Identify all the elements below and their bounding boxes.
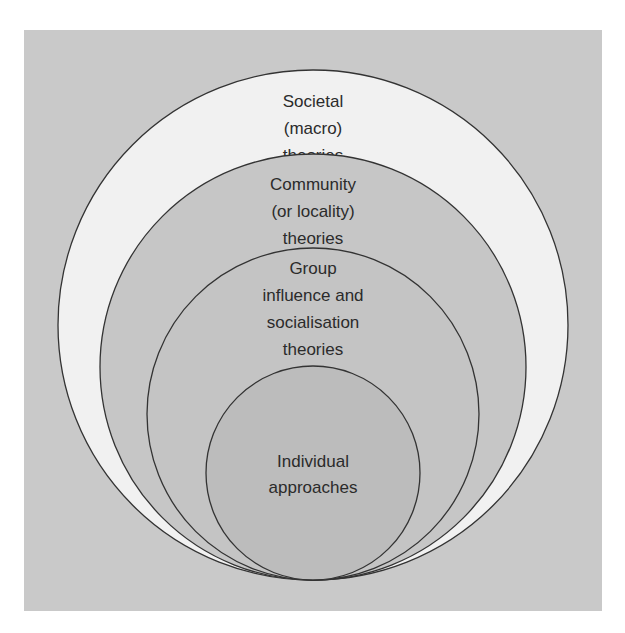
- diagram-canvas: Societal (macro) theories Community (or …: [0, 0, 625, 633]
- label-group-line-1: Group: [289, 259, 336, 278]
- label-group-line-4: theories: [283, 340, 343, 359]
- circle-individual: Individual approaches: [206, 366, 420, 580]
- label-societal-line-2: (macro): [284, 119, 343, 138]
- label-individual-line-2: approaches: [269, 478, 358, 497]
- label-community-line-3: theories: [283, 229, 343, 248]
- label-group-line-3: socialisation: [267, 313, 360, 332]
- label-individual-line-1: Individual: [277, 452, 349, 471]
- label-community-line-1: Community: [270, 175, 356, 194]
- label-community-line-2: (or locality): [271, 202, 354, 221]
- label-societal-line-1: Societal: [283, 92, 343, 111]
- label-group-line-2: influence and: [262, 286, 363, 305]
